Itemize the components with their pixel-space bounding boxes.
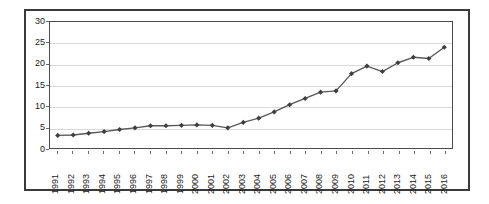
x-axis-tick-label: 2006 <box>284 174 293 194</box>
x-axis-tick-mark <box>321 151 322 154</box>
data-point-marker <box>194 122 199 127</box>
y-axis-tick-label: 20 <box>35 59 45 68</box>
x-axis-tick-label: 2007 <box>300 174 309 194</box>
series-polyline <box>58 47 445 135</box>
y-axis-tick-labels: 051015202530 <box>24 0 45 204</box>
x-axis-tick-labels: 1991199219931994199519961997199819992000… <box>49 151 453 195</box>
x-axis-tick-label: 1996 <box>129 174 138 194</box>
x-axis-tick-label: 2000 <box>191 174 200 194</box>
x-axis-tick-mark <box>150 151 151 154</box>
x-axis-tick-label: 1999 <box>176 174 185 194</box>
x-axis-tick-mark <box>88 151 89 154</box>
x-axis-tick-mark <box>383 151 384 154</box>
x-axis-tick-label: 1998 <box>160 174 169 194</box>
data-point-marker <box>411 55 416 60</box>
x-axis-tick-label: 2004 <box>253 174 262 194</box>
x-axis-tick-label: 2002 <box>222 174 231 194</box>
x-axis-tick-mark <box>414 151 415 154</box>
x-axis-tick-label: 2008 <box>315 174 324 194</box>
y-axis-tick-mark <box>46 149 49 150</box>
y-axis-tick-label: 0 <box>40 145 45 154</box>
x-axis-tick-mark <box>336 151 337 154</box>
y-axis-tick-label: 15 <box>35 81 45 90</box>
x-axis-tick-mark <box>368 151 369 154</box>
x-axis-tick-mark <box>228 151 229 154</box>
x-axis-tick-label: 1997 <box>145 174 154 194</box>
data-point-marker <box>272 109 277 114</box>
x-axis-tick-mark <box>259 151 260 154</box>
x-axis-tick-mark <box>243 151 244 154</box>
data-point-marker <box>364 64 369 69</box>
x-axis-tick-mark <box>399 151 400 154</box>
data-point-marker <box>318 90 323 95</box>
y-axis-tick-label: 30 <box>35 17 45 26</box>
x-axis-tick-label: 2011 <box>362 175 371 194</box>
x-axis-tick-label: 2010 <box>347 174 356 194</box>
x-axis-tick-label: 1993 <box>82 174 91 194</box>
x-axis-tick-mark <box>212 151 213 154</box>
data-series-line <box>50 22 452 148</box>
x-axis-tick-label: 2003 <box>238 174 247 194</box>
x-axis-tick-mark <box>197 151 198 154</box>
x-axis-tick-label: 2012 <box>378 174 387 194</box>
data-point-marker <box>132 125 137 130</box>
x-axis-tick-mark <box>445 151 446 154</box>
x-axis-tick-label: 1995 <box>113 174 122 194</box>
x-axis-tick-label: 1992 <box>67 174 76 194</box>
data-point-marker <box>241 120 246 125</box>
data-point-marker <box>225 125 230 130</box>
data-point-marker <box>117 127 122 132</box>
y-axis-tick-label: 25 <box>35 38 45 47</box>
data-point-marker <box>210 123 215 128</box>
x-axis-tick-label: 2005 <box>269 174 278 194</box>
data-point-marker <box>303 96 308 101</box>
y-axis-tick-label: 10 <box>35 102 45 111</box>
data-point-marker <box>287 102 292 107</box>
data-point-marker <box>55 133 60 138</box>
chart-figure: 051015202530 199119921993199419951996199… <box>0 0 489 204</box>
data-point-marker <box>86 131 91 136</box>
data-point-marker <box>71 132 76 137</box>
x-axis-tick-mark <box>103 151 104 154</box>
x-axis-tick-label: 2016 <box>440 174 449 194</box>
data-point-marker <box>102 129 107 134</box>
x-axis-tick-label: 2013 <box>393 174 402 194</box>
data-point-marker <box>179 123 184 128</box>
x-axis-tick-mark <box>274 151 275 154</box>
x-axis-tick-label: 1994 <box>98 174 107 194</box>
x-axis-tick-mark <box>290 151 291 154</box>
x-axis-tick-label: 2014 <box>409 174 418 194</box>
x-axis-tick-label: 2015 <box>424 174 433 194</box>
x-axis-tick-label: 1991 <box>51 174 60 194</box>
x-axis-tick-mark <box>57 151 58 154</box>
x-axis-tick-mark <box>119 151 120 154</box>
data-point-marker <box>256 116 261 121</box>
x-axis-tick-mark <box>352 151 353 154</box>
x-axis-tick-mark <box>72 151 73 154</box>
x-axis-tick-label: 2009 <box>331 174 340 194</box>
x-axis-tick-mark <box>430 151 431 154</box>
plot-area <box>49 21 453 149</box>
x-axis-tick-label: 2001 <box>207 174 216 194</box>
x-axis-tick-mark <box>134 151 135 154</box>
x-axis-tick-mark <box>166 151 167 154</box>
x-axis-tick-mark <box>181 151 182 154</box>
y-axis-tick-label: 5 <box>40 123 45 132</box>
data-point-marker <box>163 123 168 128</box>
data-point-marker <box>148 123 153 128</box>
series-markers <box>55 45 447 138</box>
x-axis-tick-mark <box>305 151 306 154</box>
